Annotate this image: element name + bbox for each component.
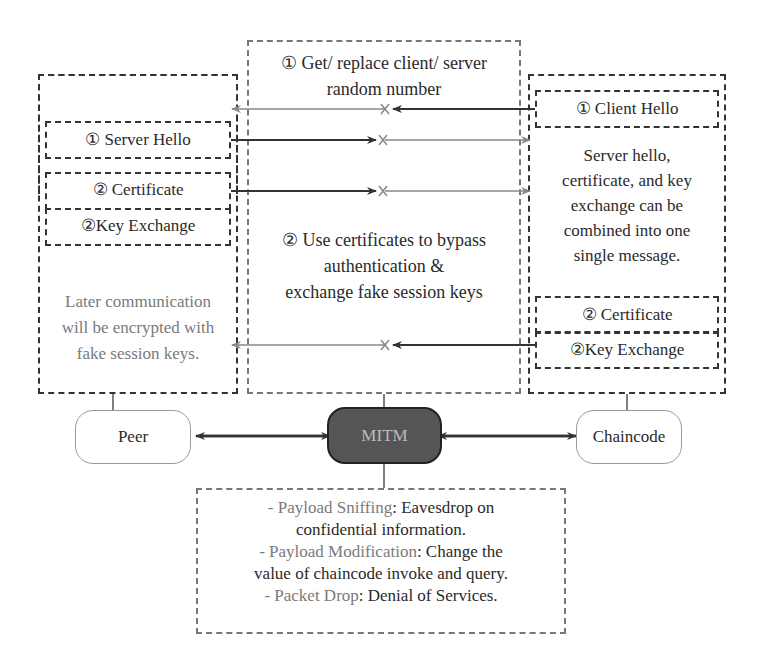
client-hello-arrow [232, 104, 535, 114]
attack-item-packet-drop: - Packet Drop: Denial of Services. [196, 585, 566, 607]
attack-types-list: - Payload Sniffing: Eavesdrop on confide… [196, 497, 566, 607]
chaincode-node: Chaincode [576, 410, 682, 464]
certificate-arrow [231, 186, 530, 196]
attack-item-sniffing: - Payload Sniffing: Eavesdrop on [196, 497, 566, 519]
mitm-node: MITM [327, 407, 442, 464]
peer-node: Peer [75, 410, 191, 464]
key-exchange-arrow [232, 340, 535, 350]
attack-item-modification: - Payload Modification: Change the [196, 541, 566, 563]
server-hello-arrow [231, 135, 530, 145]
